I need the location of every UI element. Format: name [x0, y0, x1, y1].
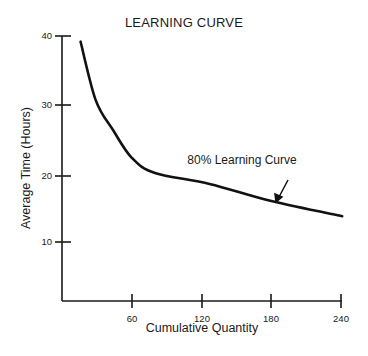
x-axis: [62, 294, 342, 308]
y-axis: [55, 36, 71, 301]
annotation-arrow: [275, 180, 288, 202]
learning-curve-line: [81, 42, 343, 217]
plot-area: [0, 0, 368, 356]
